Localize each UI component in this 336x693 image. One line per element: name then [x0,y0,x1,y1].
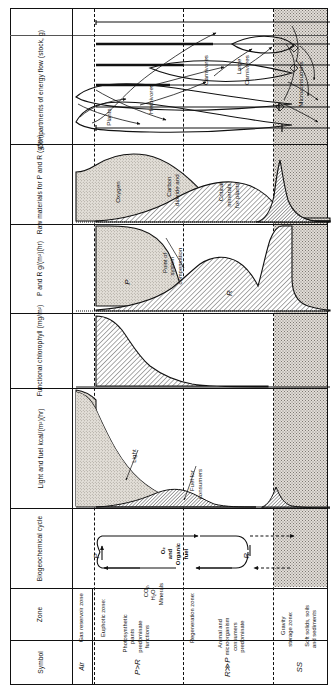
label-carnivores: Carnivores [202,44,210,96]
label-plants: Plants [105,97,113,137]
label-r-curve: R [225,283,235,303]
zone-euphotic-name: Euphotic zone: [100,589,108,647]
label-light: Light [130,438,138,474]
symbol-gravity: SS [295,652,305,682]
label-carbon-dioxide: Carbon dioxide and [157,162,189,218]
label-biogeo-r: R [242,548,252,564]
zone-regeneration-name: Regeneration zone: [189,587,197,649]
zone-gas-reservoir: Gas reservoir zone [78,588,86,648]
label-microconsumers: Microconsumers [297,50,305,118]
symbol-regeneration: R≫P [223,650,233,684]
label-critical-minerals: Critical minerals for plants [209,167,249,223]
label-compensation-point: Point of system compensation [154,234,192,298]
symbol-air: Air [77,652,86,682]
label-fuel-consumers: Fuel for consumers [180,458,212,510]
label-large-carnivores: Large Carnivores [227,44,259,96]
label-p-curve: P [123,272,133,292]
label-oxygen: Oxygen [114,172,122,212]
label-herbivores: Herbivores [147,73,155,125]
symbol-euphotic: P>R [133,650,143,684]
figure-root: Compartments of energy flow (stock, g) R… [0,0,336,693]
label-biogeo-p: P [92,548,102,564]
